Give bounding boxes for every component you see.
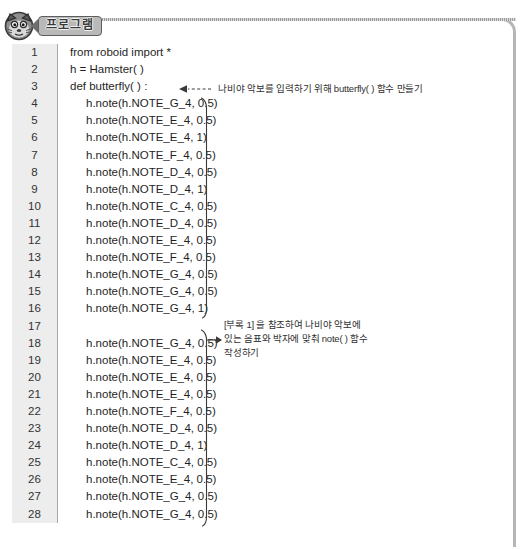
code-editor[interactable]: 1from roboid import *2h = Hamster( )3def… bbox=[12, 44, 252, 523]
left-arrow-tip-icon bbox=[31, 19, 38, 33]
line-number: 9 bbox=[12, 181, 58, 198]
line-number: 14 bbox=[12, 266, 58, 283]
code-line-row[interactable]: 6h.note(h.NOTE_E_4, 1) bbox=[12, 129, 252, 146]
code-line-text[interactable]: h.note(h.NOTE_G_4, 0.5) bbox=[58, 506, 218, 523]
annotation-side: [부록 1] 을 참조하여 나비야 악보에 있는 음표와 박자에 맞춰 note… bbox=[224, 318, 374, 360]
program-tag: 프로그램 bbox=[31, 16, 102, 36]
line-number: 3 bbox=[12, 78, 58, 95]
code-line-text[interactable]: h.note(h.NOTE_F_4, 0.5) bbox=[58, 249, 216, 266]
code-line-row[interactable]: 28h.note(h.NOTE_G_4, 0.5) bbox=[12, 506, 252, 523]
line-number: 5 bbox=[12, 112, 58, 129]
code-line-row[interactable]: 15h.note(h.NOTE_G_4, 0.5) bbox=[12, 283, 252, 300]
code-line-row[interactable]: 19h.note(h.NOTE_E_4, 0.5) bbox=[12, 352, 252, 369]
code-line-row[interactable]: 14h.note(h.NOTE_G_4, 0.5) bbox=[12, 266, 252, 283]
line-number: 8 bbox=[12, 164, 58, 181]
code-line-text[interactable]: h.note(h.NOTE_F_4, 0.5) bbox=[58, 403, 216, 420]
line-number: 28 bbox=[12, 506, 58, 523]
code-line-text[interactable]: h.note(h.NOTE_E_4, 0.5) bbox=[58, 386, 216, 403]
line-number: 11 bbox=[12, 215, 58, 232]
code-line-text[interactable]: from roboid import * bbox=[58, 44, 171, 61]
code-line-row[interactable]: 5h.note(h.NOTE_E_4, 0.5) bbox=[12, 112, 252, 129]
program-header: 프로그램 bbox=[4, 10, 102, 42]
code-line-row[interactable]: 8h.note(h.NOTE_D_4, 0.5) bbox=[12, 164, 252, 181]
code-line-row[interactable]: 2h = Hamster( ) bbox=[12, 61, 252, 78]
hamster-robot-icon bbox=[4, 11, 34, 41]
line-number: 1 bbox=[12, 44, 58, 61]
line-number: 21 bbox=[12, 386, 58, 403]
code-line-text[interactable]: h.note(h.NOTE_D_4, 0.5) bbox=[58, 215, 217, 232]
code-line-row[interactable]: 26h.note(h.NOTE_E_4, 0.5) bbox=[12, 471, 252, 488]
code-line-text[interactable]: h.note(h.NOTE_D_4, 1) bbox=[58, 437, 207, 454]
line-number: 16 bbox=[12, 300, 58, 317]
code-line-row[interactable]: 13h.note(h.NOTE_F_4, 0.5) bbox=[12, 249, 252, 266]
line-number: 15 bbox=[12, 283, 58, 300]
annotation-top: 나비야 악보를 입력하기 위해 butterfly( ) 함수 만들기 bbox=[178, 82, 423, 96]
line-number: 26 bbox=[12, 471, 58, 488]
code-line-text[interactable]: h.note(h.NOTE_D_4, 0.5) bbox=[58, 164, 217, 181]
line-number: 4 bbox=[12, 95, 58, 112]
code-line-row[interactable]: 7h.note(h.NOTE_F_4, 0.5) bbox=[12, 147, 252, 164]
line-number: 6 bbox=[12, 129, 58, 146]
code-line-text[interactable]: h.note(h.NOTE_D_4, 1) bbox=[58, 181, 207, 198]
line-number: 24 bbox=[12, 437, 58, 454]
line-number: 27 bbox=[12, 488, 58, 505]
line-number: 2 bbox=[12, 61, 58, 78]
code-line-text[interactable]: h.note(h.NOTE_D_4, 0.5) bbox=[58, 420, 217, 437]
line-number: 10 bbox=[12, 198, 58, 215]
code-line-row[interactable]: 23h.note(h.NOTE_D_4, 0.5) bbox=[12, 420, 252, 437]
annotation-side-line-3: 작성하기 bbox=[224, 346, 374, 360]
line-number: 12 bbox=[12, 232, 58, 249]
code-line-row[interactable]: 1from roboid import * bbox=[12, 44, 252, 61]
line-number: 17 bbox=[12, 318, 58, 335]
line-number: 20 bbox=[12, 369, 58, 386]
line-number: 18 bbox=[12, 335, 58, 352]
annotation-side-line-1: [부록 1] 을 참조하여 나비야 악보에 bbox=[224, 318, 374, 332]
code-line-row[interactable]: 11h.note(h.NOTE_D_4, 0.5) bbox=[12, 215, 252, 232]
code-line-text[interactable]: h.note(h.NOTE_G_4, 0.5) bbox=[58, 488, 218, 505]
code-line-text[interactable]: h.note(h.NOTE_E_4, 0.5) bbox=[58, 369, 216, 386]
line-number: 23 bbox=[12, 420, 58, 437]
line-number: 22 bbox=[12, 403, 58, 420]
code-line-row[interactable]: 12h.note(h.NOTE_E_4, 0.5) bbox=[12, 232, 252, 249]
line-number: 25 bbox=[12, 454, 58, 471]
line-number: 7 bbox=[12, 147, 58, 164]
line-number: 19 bbox=[12, 352, 58, 369]
annotation-top-text: 나비야 악보를 입력하기 위해 butterfly( ) 함수 만들기 bbox=[218, 83, 423, 94]
code-line-text[interactable]: h.note(h.NOTE_E_4, 0.5) bbox=[58, 471, 216, 488]
code-line-row[interactable]: 20h.note(h.NOTE_E_4, 0.5) bbox=[12, 369, 252, 386]
code-line-text[interactable]: h.note(h.NOTE_E_4, 1) bbox=[58, 129, 207, 146]
code-line-row[interactable]: 10h.note(h.NOTE_C_4, 0.5) bbox=[12, 198, 252, 215]
code-line-text[interactable]: h.note(h.NOTE_G_4, 0.5) bbox=[58, 95, 218, 112]
code-line-text[interactable]: h = Hamster( ) bbox=[58, 61, 144, 78]
code-line-text[interactable]: h.note(h.NOTE_E_4, 0.5) bbox=[58, 232, 216, 249]
annotation-side-line-2: 있는 음표와 박자에 맞춰 note( ) 함수 bbox=[224, 332, 374, 346]
code-line-text[interactable]: h.note(h.NOTE_G_4, 0.5) bbox=[58, 283, 218, 300]
code-line-text[interactable]: h.note(h.NOTE_F_4, 0.5) bbox=[58, 147, 216, 164]
code-line-row[interactable]: 16h.note(h.NOTE_G_4, 1) bbox=[12, 300, 252, 317]
code-line-text[interactable]: h.note(h.NOTE_C_4, 0.5) bbox=[58, 454, 217, 471]
code-line-text[interactable]: h.note(h.NOTE_G_4, 0.5) bbox=[58, 335, 218, 352]
line-number: 13 bbox=[12, 249, 58, 266]
code-line-text[interactable]: h.note(h.NOTE_E_4, 0.5) bbox=[58, 112, 216, 129]
code-line-text[interactable]: def butterfly( ) : bbox=[58, 78, 147, 95]
code-line-row[interactable]: 21h.note(h.NOTE_E_4, 0.5) bbox=[12, 386, 252, 403]
code-line-row[interactable]: 25h.note(h.NOTE_C_4, 0.5) bbox=[12, 454, 252, 471]
code-line-text[interactable]: h.note(h.NOTE_E_4, 0.5) bbox=[58, 352, 216, 369]
left-arrow-dashed-icon bbox=[178, 84, 212, 94]
code-line-row[interactable]: 4h.note(h.NOTE_G_4, 0.5) bbox=[12, 95, 252, 112]
code-line-row[interactable]: 22h.note(h.NOTE_F_4, 0.5) bbox=[12, 403, 252, 420]
brace-to-note-arrow-icon bbox=[206, 333, 226, 347]
code-line-text[interactable]: h.note(h.NOTE_G_4, 0.5) bbox=[58, 266, 218, 283]
code-line-text[interactable]: h.note(h.NOTE_G_4, 1) bbox=[58, 300, 208, 317]
code-line-row[interactable]: 9h.note(h.NOTE_D_4, 1) bbox=[12, 181, 252, 198]
code-line-row[interactable]: 24h.note(h.NOTE_D_4, 1) bbox=[12, 437, 252, 454]
code-line-row[interactable]: 27h.note(h.NOTE_G_4, 0.5) bbox=[12, 488, 252, 505]
program-tag-label: 프로그램 bbox=[38, 16, 102, 36]
code-line-text[interactable]: h.note(h.NOTE_C_4, 0.5) bbox=[58, 198, 217, 215]
